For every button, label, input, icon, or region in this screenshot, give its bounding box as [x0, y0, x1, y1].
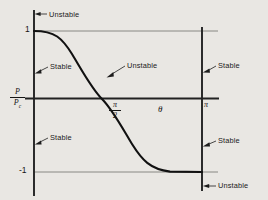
ytick-label-minus-one: -1 [19, 166, 27, 175]
xaxis-label-theta: θ [158, 105, 162, 114]
annotation-stable-lower-left: Stable [50, 134, 72, 141]
annotation-stable-upper-right: Stable [218, 62, 240, 69]
leader-stable-lower-right [203, 141, 216, 147]
xtick-half-pi-numerator: π [109, 101, 121, 110]
annotation-unstable-bottom-right: Unstable [218, 182, 248, 189]
yaxis-label-denominator-subscript: c [19, 103, 21, 109]
leader-unstable-bottom-right [203, 184, 216, 188]
ytick-label-plus-one: 1 [25, 25, 30, 34]
leader-stable-lower-left [35, 138, 48, 145]
yaxis-label-denominator: Pc [10, 99, 25, 110]
leader-stable-upper-right [203, 66, 216, 73]
xtick-half-pi-denominator: 2 [109, 112, 121, 121]
annotation-stable-upper-left: Stable [50, 63, 72, 70]
leader-stable-upper-left [35, 67, 48, 73]
yaxis-label-numerator: P [10, 88, 25, 97]
yaxis-label-p-over-pc: P Pc [10, 88, 25, 109]
figure-cosine-stability-diagram: Unstable Stable Unstable Stable Stable S… [0, 0, 268, 200]
xtick-label-pi: π [204, 101, 208, 109]
annotation-unstable-top-left: Unstable [49, 11, 79, 18]
xtick-label-half-pi: π 2 [109, 101, 121, 120]
plot-canvas [0, 0, 268, 200]
annotation-unstable-curve: Unstable [127, 62, 157, 69]
leader-unstable-top-left [35, 12, 47, 16]
leader-unstable-curve [107, 66, 126, 78]
annotation-stable-lower-right: Stable [218, 137, 240, 144]
